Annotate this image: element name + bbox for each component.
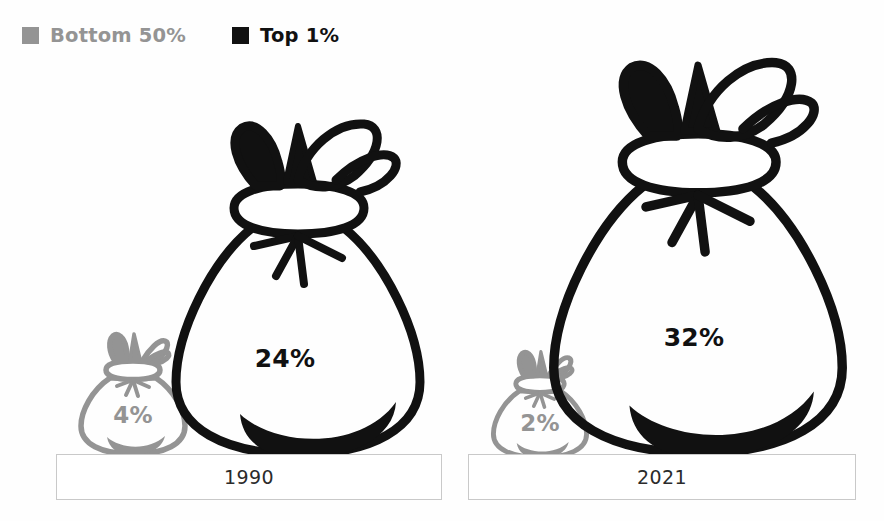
bag-shadow <box>240 402 396 458</box>
group-2021: 2% 32% <box>442 0 884 521</box>
year-label-2021: 2021 <box>637 466 687 488</box>
year-label-1990: 1990 <box>224 466 274 488</box>
bag-shadow <box>629 391 813 457</box>
pictorial-wealth-chart: Bottom 50% Top 1% <box>0 0 884 521</box>
value-label-bottom50-1990: 4% <box>113 404 152 427</box>
money-bag-black-icon <box>542 58 854 460</box>
money-bag-top1-2021[interactable]: 32% <box>542 58 854 460</box>
money-bag-black-icon <box>168 120 428 460</box>
year-box-2021[interactable]: 2021 <box>468 454 856 500</box>
year-box-1990[interactable]: 1990 <box>56 454 442 500</box>
money-bag-top1-1990[interactable]: 24% <box>168 120 428 460</box>
value-label-top1-2021: 32% <box>664 325 724 350</box>
group-1990: 4% <box>0 0 442 521</box>
value-label-top1-1990: 24% <box>255 346 315 371</box>
